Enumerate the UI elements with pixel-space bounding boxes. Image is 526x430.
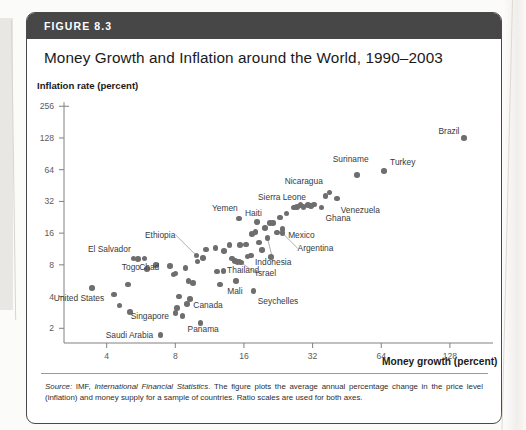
country-label-ghana: Ghana [326, 213, 351, 221]
data-point-chad [167, 263, 173, 269]
country-label-israel: Israel [256, 269, 276, 277]
data-point-mali [233, 278, 239, 284]
leader-line-ethiopia [175, 235, 196, 256]
data-point-seychelles [251, 288, 257, 294]
source-text: IMF, [72, 382, 91, 391]
data-point [125, 282, 131, 288]
data-point [274, 230, 280, 236]
data-point-united-states [111, 292, 117, 298]
x-tick-label: 8 [162, 351, 188, 361]
data-point [203, 247, 209, 253]
data-point-suriname [354, 172, 360, 178]
scatter-chart: Inflation rate (percent) Money growth (p… [27, 13, 502, 424]
country-label-el-salvador: El Salvador [88, 245, 131, 253]
country-label-mexico: Mexico [288, 230, 315, 238]
x-tick-label: 16 [231, 351, 257, 361]
country-label-togo: Togo [122, 262, 140, 270]
country-label-sierra-leone: Sierra Leone [258, 193, 306, 201]
country-label-nicaragua: Nicaragua [285, 177, 323, 185]
data-point-argentina [280, 230, 286, 236]
x-tick-label: 64 [368, 351, 394, 361]
data-point-singapore [173, 310, 179, 316]
x-tick-label: 128 [437, 351, 463, 361]
country-label-turkey: Turkey [390, 158, 415, 166]
country-label-argentina: Argentina [298, 244, 334, 252]
y-tick-label: 128 [28, 133, 54, 143]
y-tick-label: 4 [28, 292, 54, 302]
data-point [221, 248, 227, 254]
country-label-singapore: Singapore [131, 312, 169, 320]
source-divider [41, 373, 488, 374]
data-point-brazil [461, 135, 467, 141]
data-point [256, 240, 262, 246]
country-label-ethiopia: Ethiopia [145, 230, 175, 238]
country-label-brazil: Brazil [439, 127, 460, 135]
country-label-seychelles: Seychelles [258, 297, 299, 305]
x-tick-label: 4 [94, 351, 120, 361]
figure-container: FIGURE 8.3 Money Growth and Inflation ar… [26, 12, 502, 424]
data-point-thailand [221, 268, 227, 274]
country-label-united-states: United States [54, 294, 104, 302]
y-tick-label: 8 [28, 260, 54, 270]
data-point-turkey [381, 168, 387, 174]
country-label-mali: Mali [227, 287, 242, 295]
country-label-yemen: Yemen [212, 204, 238, 212]
country-label-panama: Panama [188, 325, 219, 333]
data-point [213, 245, 219, 251]
data-point [176, 294, 182, 300]
data-point-haiti [254, 219, 260, 225]
x-tick-label: 32 [300, 351, 326, 361]
data-point [262, 225, 268, 231]
y-tick-label: 2 [28, 323, 54, 333]
country-label-thailand: Thailand [227, 266, 259, 274]
source-italic: International Financial Statistics [91, 382, 209, 391]
country-label-haiti: Haiti [245, 209, 262, 217]
source-italic: Source: [45, 382, 72, 391]
data-point [200, 255, 206, 261]
data-point [277, 215, 283, 221]
country-label-suriname: Suriname [333, 155, 369, 163]
country-label-canada: Canada [193, 301, 222, 309]
data-point [270, 220, 276, 226]
data-point [243, 242, 249, 248]
data-point-yemen [236, 216, 242, 222]
y-tick-label: 32 [28, 196, 54, 206]
data-point [259, 247, 265, 253]
source-note: Source: IMF, International Financial Sta… [45, 381, 483, 403]
data-point [311, 202, 317, 208]
y-tick-label: 16 [28, 228, 54, 238]
country-label-indonesia: Indonesia [255, 257, 291, 265]
data-point [183, 265, 189, 271]
y-tick-label: 64 [28, 165, 54, 175]
y-tick-label: 256 [28, 101, 54, 111]
data-point [89, 285, 95, 291]
data-point-sierra-leone [291, 205, 297, 211]
country-label-saudi-arabia: Saudi Arabia [106, 331, 154, 339]
data-point [190, 280, 196, 286]
chart-svg-layer [27, 13, 502, 424]
data-point [227, 242, 233, 248]
country-label-chad: Chad [139, 263, 159, 271]
data-point-canada [184, 301, 190, 307]
